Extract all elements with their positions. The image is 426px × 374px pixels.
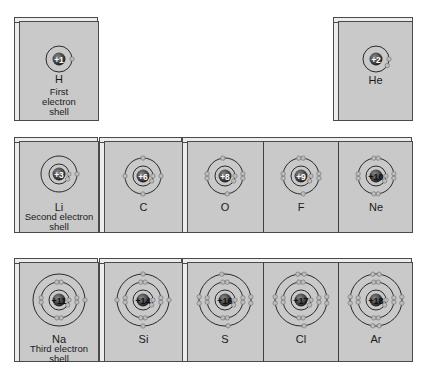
electron <box>392 176 396 180</box>
electron <box>325 295 329 299</box>
electron <box>197 295 201 299</box>
electron <box>297 316 301 320</box>
atom-c: +6 C <box>104 141 183 233</box>
nucleus-charge: +3 <box>54 170 64 180</box>
element-symbol: Ne <box>339 201 413 213</box>
element-symbol: O <box>187 201 263 213</box>
electron <box>302 324 306 328</box>
electron <box>372 280 376 284</box>
electron <box>392 172 396 176</box>
atom-cl: +17 Cl <box>264 262 338 362</box>
electron <box>59 316 63 320</box>
electron <box>59 280 63 284</box>
electron <box>151 174 155 178</box>
element-symbol: F <box>264 201 338 213</box>
electron <box>392 296 396 300</box>
electron <box>205 296 209 300</box>
bohr-diagram: +14 <box>104 262 183 362</box>
electron <box>377 272 381 276</box>
atom-he: +2 He <box>338 21 413 121</box>
shell-caption: Third electron shell <box>27 344 91 364</box>
electron <box>141 192 145 196</box>
electron <box>348 295 352 299</box>
electron <box>221 156 225 160</box>
electron <box>297 156 301 160</box>
electron <box>159 174 163 178</box>
element-symbol: Cl <box>264 333 338 345</box>
element-symbol: Si <box>104 333 183 345</box>
atom-li: +3 Li Second electron shell <box>19 141 99 233</box>
bohr-diagram: +16 <box>187 262 263 362</box>
electron <box>221 280 225 284</box>
electron <box>75 296 79 300</box>
electron <box>241 296 245 300</box>
electron <box>372 316 376 320</box>
electron <box>392 300 396 304</box>
electron <box>159 296 163 300</box>
electron <box>372 192 376 196</box>
electron <box>233 298 237 302</box>
electron <box>75 300 79 304</box>
nucleus-charge: +1 <box>54 55 64 65</box>
atom-ar: +18 Ar <box>339 262 413 362</box>
nucleus-charge: +14 <box>135 296 150 306</box>
bohr-diagram: +10 <box>339 141 413 233</box>
electron <box>139 316 143 320</box>
element-symbol: S <box>187 333 263 345</box>
electron <box>356 296 360 300</box>
electron <box>309 298 313 302</box>
electron <box>249 301 253 305</box>
electron <box>376 156 380 160</box>
electron <box>387 57 391 61</box>
electron <box>226 324 230 328</box>
bohr-diagram: +9 <box>264 141 338 233</box>
nucleus-charge: +2 <box>371 55 381 65</box>
electron <box>371 324 375 328</box>
electron <box>301 316 305 320</box>
electron <box>301 156 305 160</box>
electron <box>220 272 224 276</box>
electron <box>281 176 285 180</box>
electron <box>273 301 277 305</box>
bohr-diagram: +8 <box>187 141 263 233</box>
electron <box>231 179 235 183</box>
nucleus-charge: +6 <box>138 172 148 182</box>
electron <box>225 192 229 196</box>
electron <box>241 172 245 176</box>
bohr-diagram: +18 <box>339 262 413 362</box>
electron <box>65 177 69 181</box>
electron <box>377 324 381 328</box>
bohr-diagram: +6 <box>104 141 183 233</box>
electron <box>151 298 155 302</box>
electron <box>39 300 43 304</box>
electron <box>384 298 388 302</box>
atom-f: +9 F <box>264 141 338 233</box>
nucleus-charge: +18 <box>368 296 383 306</box>
electron <box>205 176 209 180</box>
electron <box>376 280 380 284</box>
element-symbol: Ar <box>339 333 413 345</box>
electron <box>384 174 388 178</box>
electron <box>372 156 376 160</box>
electron <box>385 63 389 67</box>
element-symbol: C <box>104 201 183 213</box>
atom-o: +8 O <box>187 141 263 233</box>
element-symbol: H <box>19 73 99 85</box>
electron <box>400 295 404 299</box>
electron <box>296 272 300 276</box>
electron <box>225 316 229 320</box>
electron <box>301 192 305 196</box>
electron <box>67 172 71 176</box>
electron <box>149 179 153 183</box>
atom-ne: +10 Ne <box>339 141 413 233</box>
electron <box>225 280 229 284</box>
electron <box>297 280 301 284</box>
electron <box>281 300 285 304</box>
electron <box>400 301 404 305</box>
electron <box>249 295 253 299</box>
electron <box>55 316 59 320</box>
electron <box>317 300 321 304</box>
electron <box>167 298 171 302</box>
element-symbol: He <box>338 74 413 86</box>
electron <box>317 176 321 180</box>
